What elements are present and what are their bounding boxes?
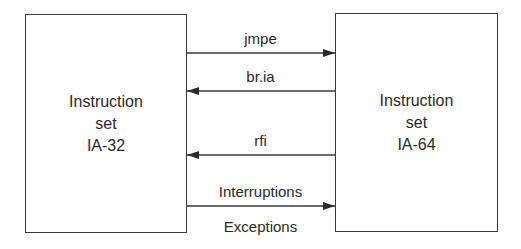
jmpe-label: jmpe <box>186 30 335 47</box>
interruptions-label: Interruptions <box>186 183 335 200</box>
rfi-label: rfi <box>186 132 335 149</box>
br-ia-label: br.ia <box>186 68 335 85</box>
exceptions-label: Exceptions <box>186 218 335 235</box>
